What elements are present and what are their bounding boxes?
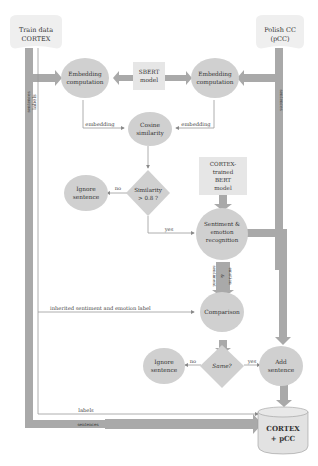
cortex-label: CORTEX [22, 35, 51, 43]
polish-cc-source: Polish CC (pCC) [256, 15, 304, 48]
node-text: recognition [206, 237, 239, 244]
right-branch-pipe [244, 74, 275, 82]
node-text: Comparison [204, 309, 240, 316]
node-text: > 0.8 ? [138, 195, 158, 201]
node-text: trained [213, 169, 234, 175]
cosine-similarity: Cosine similarity [128, 112, 172, 146]
ignore-sentence-1: Ignore sentence [64, 175, 108, 211]
add-to-output [280, 385, 288, 400]
node-text: computation [67, 79, 104, 86]
node-text: Embedding [198, 71, 232, 78]
node-text: + pCC [271, 434, 296, 443]
output-database: CORTEX + pCC [258, 407, 308, 454]
node-text: model [140, 77, 158, 83]
cortex-bert-model: CORTEX- trained BERT model [199, 157, 247, 195]
arrow-head [276, 400, 292, 407]
node-text: Embedding [68, 71, 102, 78]
similarity-decision: Similarity > 0.8 ? [126, 170, 170, 216]
yes-label-1: yes [164, 226, 174, 233]
node-text: CORTEX [266, 424, 300, 433]
amp-label: & [220, 274, 225, 278]
node-text: emotion [211, 229, 234, 235]
ignore-sentence-2: Ignore sentence [143, 348, 185, 384]
no-label-1: no [115, 185, 121, 191]
sbert-model: SBERT model [133, 62, 165, 90]
node-text: sentence [268, 367, 295, 373]
right-pipe-to-add [279, 237, 287, 337]
node-text: Ignore [154, 359, 174, 366]
node-text: model [214, 185, 232, 191]
node-text: sentence [73, 194, 100, 200]
left-branch-pipe [33, 74, 55, 82]
node-text: computation [197, 79, 234, 86]
node-text: Similarity [134, 187, 163, 194]
pcc-label: (pCC) [270, 35, 290, 43]
node-text: CORTEX- [210, 161, 237, 167]
sentences-bottom-label: sentences [77, 422, 98, 427]
node-text: Sentiment & [204, 221, 240, 227]
node-text: Same? [212, 363, 232, 369]
embedding-left-label: embedding [85, 121, 115, 128]
sentiment-emotion-recognition: Sentiment & emotion recognition [196, 208, 248, 260]
labels-left-label: labels [31, 94, 37, 110]
node-text: BERT [215, 177, 231, 183]
right-branch-recognition [245, 229, 275, 237]
node-text: Cosine [140, 122, 160, 128]
node-text: Add [274, 359, 287, 365]
sbert-to-embed-left [119, 75, 133, 81]
pipe-join [100, 420, 105, 428]
flowchart-diagram: Train data CORTEX Polish CC (pCC) Embedd… [0, 0, 318, 466]
node-text: sentence [151, 367, 178, 373]
arrow-head [55, 70, 62, 86]
train-data-label: Train data [19, 26, 53, 34]
no-label-2: no [190, 358, 196, 364]
bottom-sentences-pipe-end [105, 419, 253, 429]
embedding-right-label: embedding [181, 121, 211, 128]
train-data-source: Train data CORTEX [10, 15, 62, 48]
node-text: SBERT [139, 69, 160, 75]
add-sentence: Add sentence [259, 346, 303, 386]
embedding-computation-right: Embedding computation [191, 58, 239, 98]
pipe-join [275, 229, 287, 241]
yes-label-2: yes [247, 358, 257, 365]
node-text: Ignore [76, 186, 96, 193]
node-text: similarity [136, 130, 164, 137]
comparison: Comparison [200, 292, 244, 332]
arrow-head [275, 337, 291, 345]
arrow-head [113, 71, 119, 85]
embedding-computation-left: Embedding computation [61, 58, 109, 98]
sbert-to-embed-right [165, 75, 186, 81]
sentences-right-label: sentences [279, 89, 284, 110]
bert-to-recognition [219, 194, 227, 204]
emotion-label: emotion [228, 267, 233, 285]
inherited-label: inherited sentiment and emotion label [50, 305, 151, 311]
same-decision: Same? [200, 345, 244, 388]
labels-bottom-label: labels [78, 407, 94, 413]
sentiment-label: sentiment [212, 265, 217, 286]
polish-cc-label: Polish CC [264, 26, 296, 34]
